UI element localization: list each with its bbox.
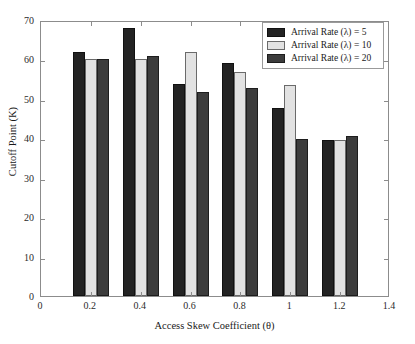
bar — [296, 139, 308, 296]
y-tick-mark-right — [384, 101, 388, 102]
y-tick-mark — [41, 219, 45, 220]
y-tick-mark — [41, 101, 45, 102]
legend-swatch-icon — [267, 28, 285, 37]
bar — [284, 85, 296, 296]
y-tick-label: 70 — [24, 16, 34, 26]
bar — [272, 108, 284, 296]
legend-item: Arrival Rate (λ) = 5 — [267, 26, 378, 39]
y-tick-mark-right — [384, 140, 388, 141]
legend: Arrival Rate (λ) = 5Arrival Rate (λ) = 1… — [262, 22, 384, 69]
legend-swatch-icon — [267, 54, 285, 63]
x-tick-mark — [91, 292, 92, 296]
y-tick-label: 40 — [24, 134, 34, 144]
y-tick-label: 10 — [24, 253, 34, 263]
bar-chart-figure: Cutoff Point (K) 010203040506070 00.20.4… — [0, 0, 415, 344]
y-tick-mark — [41, 61, 45, 62]
y-tick-mark — [41, 180, 45, 181]
bar — [123, 28, 135, 296]
y-axis-tick-labels: 010203040506070 — [0, 0, 40, 344]
y-tick-mark-right — [384, 259, 388, 260]
bar — [322, 140, 334, 296]
x-tick-mark — [340, 292, 341, 296]
x-tick-label: 0 — [38, 300, 43, 311]
bar — [185, 52, 197, 296]
x-tick-label: 0.2 — [84, 300, 97, 311]
legend-label: Arrival Rate (λ) = 10 — [291, 41, 371, 51]
y-tick-mark — [41, 259, 45, 260]
x-tick-label: 0.4 — [133, 300, 146, 311]
x-tick-label: 1 — [287, 300, 292, 311]
bar — [197, 92, 209, 296]
y-tick-label: 50 — [24, 95, 34, 105]
y-tick-label: 60 — [24, 55, 34, 65]
bar — [97, 59, 109, 296]
x-tick-mark-top — [91, 22, 92, 26]
bar — [246, 88, 258, 296]
bar — [222, 63, 234, 296]
bar — [234, 72, 246, 296]
bar — [85, 59, 97, 296]
y-tick-label: 0 — [29, 292, 34, 302]
x-tick-mark — [141, 292, 142, 296]
x-tick-mark-top — [141, 22, 142, 26]
y-tick-mark — [41, 140, 45, 141]
x-tick-label: 1.4 — [383, 300, 396, 311]
legend-item: Arrival Rate (λ) = 20 — [267, 52, 378, 65]
legend-label: Arrival Rate (λ) = 20 — [291, 54, 371, 64]
legend-label: Arrival Rate (λ) = 5 — [291, 28, 366, 38]
y-tick-label: 20 — [24, 213, 34, 223]
x-axis-title: Access Skew Coefficient (θ) — [40, 320, 389, 331]
x-tick-label: 1.2 — [333, 300, 346, 311]
x-tick-mark-top — [191, 22, 192, 26]
bar — [73, 52, 85, 296]
x-tick-label: 0.8 — [233, 300, 246, 311]
x-tick-label: 0.6 — [183, 300, 196, 311]
y-tick-mark-right — [384, 219, 388, 220]
bar — [346, 136, 358, 296]
bar — [135, 59, 147, 296]
legend-item: Arrival Rate (λ) = 10 — [267, 39, 378, 52]
y-tick-label: 30 — [24, 174, 34, 184]
x-tick-mark — [290, 292, 291, 296]
bar — [334, 140, 346, 296]
bar — [147, 56, 159, 297]
y-tick-mark-right — [384, 61, 388, 62]
y-tick-mark-right — [384, 180, 388, 181]
legend-swatch-icon — [267, 41, 285, 50]
x-tick-mark-top — [240, 22, 241, 26]
bar — [173, 84, 185, 296]
x-tick-mark — [191, 292, 192, 296]
x-tick-mark — [240, 292, 241, 296]
